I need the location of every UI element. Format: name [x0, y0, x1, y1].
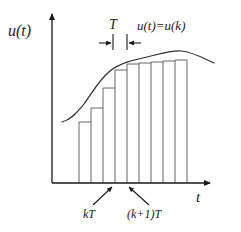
period-dimension — [99, 34, 141, 50]
staircase-vertical-lines — [79, 60, 187, 183]
figure-zero-order-hold: u(t) t T u(t)=u(k) kT (k+1)T — [0, 0, 241, 232]
leader-arrow-kT — [93, 187, 112, 205]
leader-arrow-k-plus-1-T — [129, 187, 149, 205]
y-axis-label: u(t) — [8, 23, 31, 39]
sample-instant-kT-label: kT — [83, 208, 95, 220]
sample-instant-k-plus-1-T-label: (k+1)T — [127, 208, 161, 220]
sample-leader-arrows — [93, 187, 149, 205]
figure-canvas — [0, 0, 241, 232]
hold-value-label: u(t)=u(k) — [137, 19, 185, 32]
x-axis-label: t — [196, 190, 200, 205]
staircase-step-tops — [79, 60, 187, 122]
continuous-signal-curve — [62, 51, 214, 122]
sampling-period-label: T — [109, 18, 117, 32]
